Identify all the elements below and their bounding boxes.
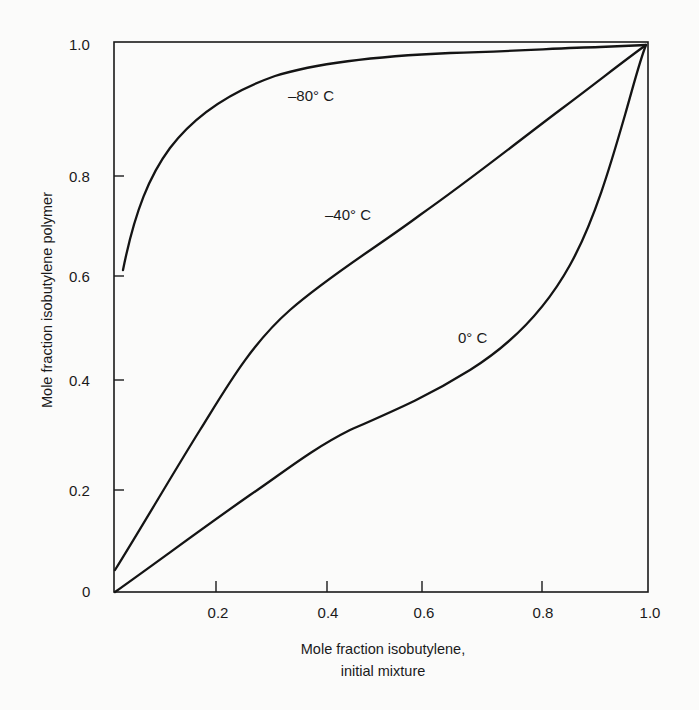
y-axis-ticks	[114, 176, 124, 490]
y-tick-label: 1.0	[69, 36, 90, 53]
curve-minus-40c	[115, 45, 646, 570]
y-tick-label: 0.4	[69, 372, 90, 389]
plot-frame	[114, 42, 648, 592]
x-tick-label: 1.0	[640, 604, 661, 621]
y-tick-label: 0	[82, 583, 90, 600]
curve-label-minus-80c: –80° C	[288, 87, 334, 104]
copolymer-composition-chart: 0 0.2 0.4 0.6 0.8 1.0 0.2 0.4 0.6 0.8 1.…	[0, 0, 699, 710]
curve-0c	[115, 45, 646, 592]
y-tick-label: 0.2	[69, 482, 90, 499]
x-axis-title-line2: initial mixture	[341, 663, 426, 679]
y-tick-label: 0.6	[69, 268, 90, 285]
y-axis-tick-labels: 0 0.2 0.4 0.6 0.8 1.0	[69, 36, 90, 600]
x-axis-tick-labels: 0.2 0.4 0.6 0.8 1.0	[208, 604, 661, 621]
y-tick-label: 0.8	[69, 168, 90, 185]
curve-label-0c: 0° C	[458, 329, 488, 346]
x-tick-label: 0.8	[533, 604, 554, 621]
x-tick-label: 0.4	[318, 604, 339, 621]
x-axis-ticks	[216, 581, 542, 592]
x-tick-label: 0.6	[414, 604, 435, 621]
y-axis-title: Mole fraction isobutylene polymer	[39, 192, 55, 408]
x-tick-label: 0.2	[208, 604, 229, 621]
curve-label-minus-40c: –40° C	[325, 206, 371, 223]
x-axis-title-line1: Mole fraction isobutylene,	[301, 641, 465, 657]
curve-minus-80c	[123, 45, 646, 270]
